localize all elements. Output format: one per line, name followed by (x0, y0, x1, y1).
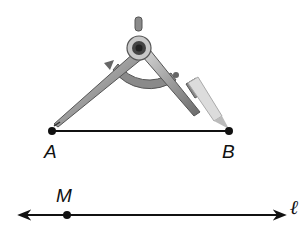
point-a (48, 127, 56, 135)
compass-pencil-leg (142, 50, 229, 129)
point-m (63, 211, 71, 219)
label-a: A (44, 142, 57, 161)
label-line-l: ℓ (290, 197, 299, 217)
compass-hinge (127, 17, 151, 60)
compass-needle-leg (54, 52, 143, 127)
label-m: M (56, 186, 72, 205)
compass-diagram (0, 0, 308, 236)
label-b: B (222, 142, 235, 161)
point-b (225, 127, 233, 135)
